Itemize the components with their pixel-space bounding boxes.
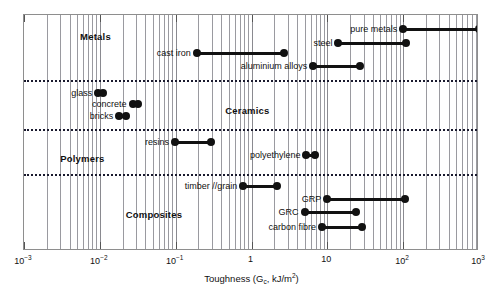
series-row[interactable]: timber //grain bbox=[24, 180, 478, 192]
series-label: timber //grain bbox=[185, 180, 238, 192]
x-tick-label: 102 bbox=[382, 254, 422, 266]
range-min-marker bbox=[239, 182, 247, 190]
series-row[interactable]: GRP bbox=[24, 193, 478, 205]
series-row[interactable]: resins bbox=[24, 136, 478, 148]
series-label: GRP bbox=[302, 193, 322, 205]
series-label: bricks bbox=[90, 110, 114, 122]
range-min-marker bbox=[309, 62, 317, 70]
range-bar bbox=[243, 185, 277, 188]
series-label: pure metals bbox=[350, 23, 397, 35]
plot-area: MetalsCeramicsPolymersComposites pure me… bbox=[23, 14, 478, 250]
axis-tick bbox=[100, 15, 101, 22]
series-row[interactable]: GRC bbox=[24, 206, 478, 218]
group-divider bbox=[24, 80, 477, 82]
range-min-marker bbox=[323, 195, 331, 203]
series-label: polyethylene bbox=[250, 149, 301, 161]
x-tick-label: 10−2 bbox=[79, 254, 119, 266]
series-label: resins bbox=[145, 136, 169, 148]
range-max-marker bbox=[280, 49, 288, 57]
range-min-marker bbox=[193, 49, 201, 57]
series-label: GRC bbox=[279, 206, 299, 218]
x-tick-label: 103 bbox=[458, 254, 498, 266]
group-divider bbox=[24, 174, 477, 176]
range-bar bbox=[313, 65, 360, 68]
range-bar bbox=[175, 141, 211, 144]
range-max-marker bbox=[401, 195, 409, 203]
range-max-marker bbox=[207, 138, 215, 146]
range-min-marker bbox=[318, 223, 326, 231]
range-bar bbox=[305, 211, 357, 214]
axis-tick bbox=[327, 242, 328, 249]
range-max-marker bbox=[273, 182, 281, 190]
axis-tick bbox=[252, 15, 253, 22]
range-max-marker bbox=[99, 89, 107, 97]
series-row[interactable]: polyethylene bbox=[24, 149, 478, 161]
series-label: carbon fibre bbox=[268, 221, 316, 233]
range-bar bbox=[403, 28, 478, 31]
series-row[interactable]: cast iron bbox=[24, 47, 478, 59]
series-row[interactable]: aluminium alloys bbox=[24, 60, 478, 72]
series-label: cast iron bbox=[157, 47, 191, 59]
x-axis-title: Toughness (Gc, kJ/m2) bbox=[0, 272, 503, 285]
axis-tick bbox=[403, 242, 404, 249]
group-divider bbox=[24, 129, 477, 131]
x-tick-label: 10−3 bbox=[3, 254, 43, 266]
range-min-marker bbox=[399, 25, 407, 33]
chart-canvas: MetalsCeramicsPolymersComposites pure me… bbox=[0, 0, 503, 297]
series-row[interactable]: bricks bbox=[24, 110, 478, 122]
series-row[interactable]: concrete bbox=[24, 98, 478, 110]
range-bar bbox=[322, 226, 362, 229]
axis-tick bbox=[100, 242, 101, 249]
range-min-marker bbox=[334, 39, 342, 47]
range-max-marker bbox=[311, 151, 319, 159]
x-tick-label: 1 bbox=[231, 254, 271, 264]
range-max-marker bbox=[402, 39, 410, 47]
range-bar bbox=[327, 198, 404, 201]
range-max-marker bbox=[352, 208, 360, 216]
series-row[interactable]: carbon fibre bbox=[24, 221, 478, 233]
range-max-marker bbox=[134, 100, 142, 108]
axis-tick bbox=[403, 15, 404, 22]
range-min-marker bbox=[301, 208, 309, 216]
axis-tick bbox=[24, 15, 25, 22]
axis-tick bbox=[176, 242, 177, 249]
range-max-marker bbox=[356, 62, 364, 70]
x-tick-label: 10−1 bbox=[155, 254, 195, 266]
axis-tick bbox=[176, 15, 177, 22]
range-min-marker bbox=[171, 138, 179, 146]
axis-tick bbox=[252, 242, 253, 249]
series-row[interactable]: pure metals bbox=[24, 23, 478, 35]
range-max-marker bbox=[122, 112, 130, 120]
series-label: aluminium alloys bbox=[241, 60, 308, 72]
range-max-marker bbox=[475, 25, 478, 33]
axis-tick bbox=[327, 15, 328, 22]
range-max-marker bbox=[358, 223, 366, 231]
axis-tick bbox=[24, 242, 25, 249]
range-bar bbox=[197, 52, 284, 55]
x-tick-label: 10 bbox=[306, 254, 346, 264]
range-bar bbox=[338, 42, 406, 45]
range-min-marker bbox=[302, 151, 310, 159]
series-label: concrete bbox=[92, 98, 127, 110]
